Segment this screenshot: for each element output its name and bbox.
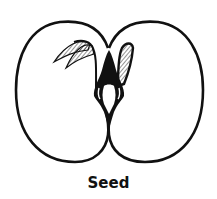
diagram-title: Seed — [0, 174, 217, 192]
right-embryo-leaf — [118, 44, 133, 87]
seed-illustration — [0, 0, 217, 170]
